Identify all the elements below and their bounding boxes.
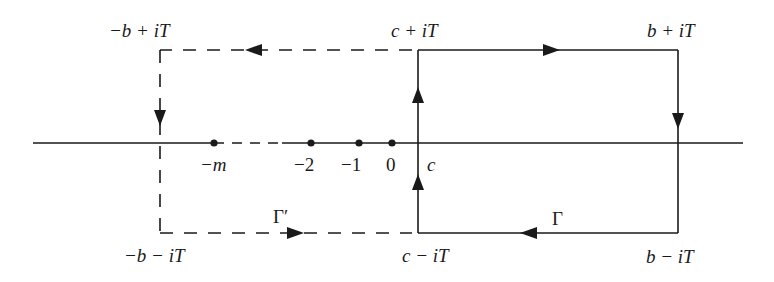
- label-top-right: b + iT: [647, 21, 695, 40]
- label-c: c: [427, 155, 435, 174]
- label-minus-m: −m: [200, 155, 227, 174]
- point-minus-1: [355, 139, 362, 146]
- label-minus-1: −1: [341, 155, 361, 174]
- contour-svg: [0, 0, 774, 282]
- point-zero: [388, 139, 395, 146]
- arrow-down-icon: [672, 113, 684, 129]
- label-top-left: −b + iT: [109, 21, 170, 40]
- label-top-middle: c + iT: [391, 21, 438, 40]
- label-minus-m-text: −m: [200, 154, 227, 175]
- arrow-left-icon: [245, 44, 262, 56]
- point-minus-2: [307, 139, 314, 146]
- label-bottom-middle: c − iT: [402, 246, 449, 265]
- label-bottom-right: b − iT: [646, 247, 694, 266]
- label-bottom-left: −b − iT: [124, 246, 185, 265]
- arrow-right-icon: [543, 44, 560, 56]
- label-gamma-prime: Γ′: [273, 207, 288, 226]
- arrow-down-icon: [154, 110, 166, 126]
- arrow-up-icon: [412, 87, 424, 103]
- label-minus-2: −2: [294, 155, 314, 174]
- label-gamma: Γ: [552, 209, 563, 228]
- label-zero: 0: [386, 155, 396, 174]
- point-minus-m: [210, 139, 217, 146]
- contour-diagram: −b + iT c + iT b + iT −b − iT c − iT b −…: [0, 0, 774, 282]
- arrow-up-icon: [412, 174, 424, 190]
- arrow-left-icon: [520, 227, 537, 239]
- arrow-right-icon: [287, 227, 304, 239]
